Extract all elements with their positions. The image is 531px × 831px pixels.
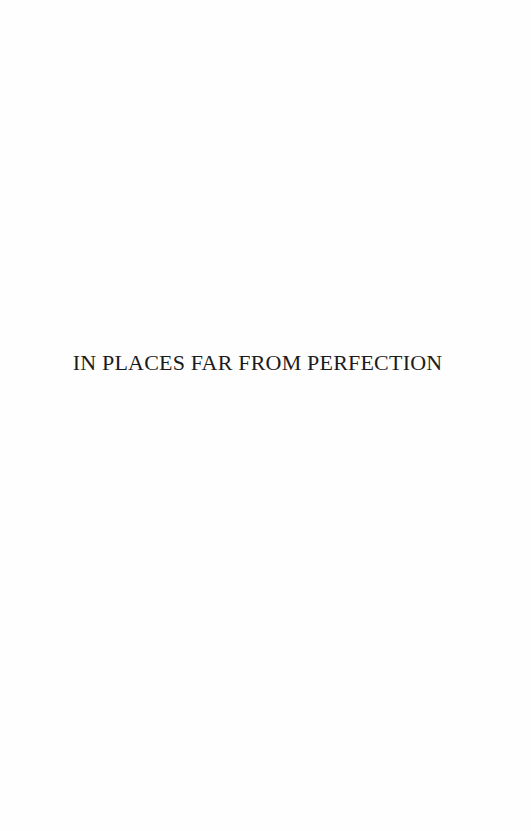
book-page: IN PLACES FAR FROM PERFECTION bbox=[0, 0, 531, 831]
book-title: IN PLACES FAR FROM PERFECTION bbox=[0, 350, 523, 376]
